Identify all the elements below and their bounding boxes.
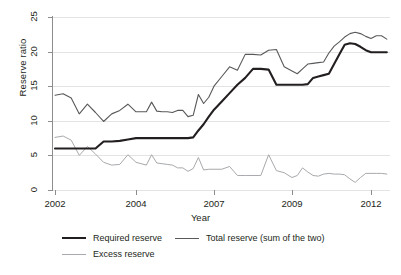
y-tick-mark xyxy=(48,190,53,191)
chart-legend: Required reserve Total reserve (sum of t… xyxy=(0,230,401,262)
legend-swatch-excess-reserve xyxy=(62,254,86,255)
reserve-ratio-chart: Reserve ratio 0510152025 200220042007200… xyxy=(0,0,401,275)
y-tick-label: 15 xyxy=(28,73,39,99)
legend-label-excess-reserve: Excess reserve xyxy=(93,249,155,259)
x-tick-mark xyxy=(136,190,137,195)
series-line-excess-reserve xyxy=(55,136,387,182)
legend-item-required-reserve: Required reserve xyxy=(62,233,162,243)
y-axis-title: Reserve ratio xyxy=(17,8,28,128)
legend-label-total-reserve: Total reserve (sum of the two) xyxy=(206,233,325,243)
legend-item-excess-reserve: Excess reserve xyxy=(62,249,155,259)
legend-row-2: Excess reserve xyxy=(0,246,401,262)
y-tick-label: 10 xyxy=(28,107,39,133)
series-line-total-reserve-sum-of-the-two xyxy=(55,32,387,121)
x-tick-mark xyxy=(55,190,56,195)
x-tick-mark xyxy=(371,190,372,195)
y-tick-label: 25 xyxy=(28,4,39,30)
x-tick-label: 2009 xyxy=(272,198,312,209)
legend-row-1: Required reserve Total reserve (sum of t… xyxy=(0,230,401,246)
y-tick-label: 5 xyxy=(28,142,39,168)
x-tick-mark xyxy=(292,190,293,195)
x-tick-mark xyxy=(214,190,215,195)
series-lines xyxy=(53,17,390,190)
x-tick-label: 2012 xyxy=(351,198,391,209)
legend-label-required-reserve: Required reserve xyxy=(93,233,162,243)
x-tick-label: 2007 xyxy=(194,198,234,209)
legend-swatch-required-reserve xyxy=(62,237,86,239)
y-tick-label: 20 xyxy=(28,38,39,64)
legend-swatch-total-reserve xyxy=(175,238,199,239)
gridline xyxy=(53,190,390,191)
legend-item-total-reserve: Total reserve (sum of the two) xyxy=(175,233,325,243)
x-tick-label: 2002 xyxy=(35,198,75,209)
series-line-required-reserve xyxy=(55,43,387,148)
x-axis-title: Year xyxy=(0,212,401,223)
plot-area xyxy=(53,17,390,190)
x-tick-label: 2004 xyxy=(116,198,156,209)
